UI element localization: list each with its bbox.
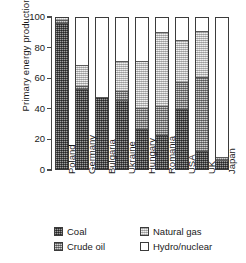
legend-label: Hydro/nuclear (153, 242, 212, 252)
segment-crude-oil (136, 109, 148, 130)
legend-swatch-crude-oil-icon (54, 242, 63, 251)
legend-item-hydro-nuclear[interactable]: Hydro/nuclear (140, 242, 234, 252)
x-tick-label-poland: Poland (66, 144, 77, 174)
segment-hydro-nuclear (76, 18, 88, 66)
legend-label: Coal (67, 227, 87, 237)
x-tick-label-bulgaria: Bulgaria (106, 139, 117, 174)
segment-crude-oil (176, 83, 188, 110)
segment-natural-gas (136, 62, 148, 109)
stacked-bar-chart: Primary energy production (%) 0204060801… (0, 0, 246, 263)
segment-crude-oil (196, 78, 208, 152)
y-tick-40 (47, 108, 51, 109)
segment-natural-gas (156, 33, 168, 107)
legend-item-coal[interactable]: Coal (54, 227, 140, 237)
y-tick-0 (47, 169, 51, 170)
segment-hydro-nuclear (176, 18, 188, 41)
y-tick-label-80: 80 (21, 43, 45, 53)
segment-natural-gas (116, 62, 128, 92)
x-tick-label-uk: UK (206, 161, 217, 174)
legend-item-natural-gas[interactable]: Natural gas (140, 227, 234, 237)
segment-hydro-nuclear (116, 18, 128, 62)
x-tick-label-japan: Japan (226, 148, 237, 174)
segment-crude-oil (156, 107, 168, 136)
x-tick-label-hungary: Hungary (146, 138, 157, 174)
y-tick-20 (47, 139, 51, 140)
segment-hydro-nuclear (216, 18, 228, 158)
legend-label: Natural gas (153, 227, 202, 237)
bar-japan[interactable] (215, 17, 229, 170)
x-tick-label-usa: USA (186, 154, 197, 174)
y-tick-100 (47, 16, 51, 17)
chart-legend: CoalNatural gasCrude oilHydro/nuclear (54, 224, 234, 254)
y-tick-80 (47, 47, 51, 48)
y-tick-label-60: 60 (21, 73, 45, 83)
segment-natural-gas (196, 32, 208, 79)
segment-hydro-nuclear (136, 18, 148, 62)
segment-hydro-nuclear (196, 18, 208, 32)
legend-swatch-hydro-nuclear-icon (140, 242, 149, 251)
segment-crude-oil (116, 92, 128, 101)
segment-natural-gas (176, 41, 188, 83)
bar-uk[interactable] (195, 17, 209, 170)
legend-swatch-coal-icon (54, 227, 63, 236)
bar-usa[interactable] (175, 17, 189, 170)
segment-hydro-nuclear (156, 18, 168, 33)
legend-label: Crude oil (67, 242, 105, 252)
segment-natural-gas (76, 66, 88, 87)
y-tick-label-40: 40 (21, 104, 45, 114)
legend-swatch-natural-gas-icon (140, 227, 149, 236)
x-tick-label-ukraine: Ukraine (126, 141, 137, 174)
y-tick-label-20: 20 (21, 134, 45, 144)
x-tick-label-romania: Romania (166, 136, 177, 174)
y-tick-label-0: 0 (21, 165, 45, 175)
y-tick-60 (47, 78, 51, 79)
segment-hydro-nuclear (96, 18, 108, 98)
plot-area (52, 17, 232, 170)
y-tick-label-100: 100 (21, 12, 45, 22)
legend-item-crude-oil[interactable]: Crude oil (54, 242, 140, 252)
x-tick-label-germany: Germany (86, 135, 97, 174)
